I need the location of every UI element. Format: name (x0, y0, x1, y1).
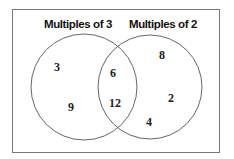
value-3: 3 (54, 60, 60, 74)
value-2: 2 (168, 91, 174, 105)
value-6: 6 (110, 66, 116, 80)
value-8: 8 (159, 48, 165, 62)
universal-set-frame (13, 10, 220, 153)
circle-multiples-of-3 (31, 34, 137, 140)
value-9: 9 (68, 100, 74, 114)
value-12: 12 (109, 96, 121, 110)
venn-diagram: Multiples of 3 Multiples of 2 3 9 6 12 8… (0, 0, 234, 159)
label-multiples-of-3: Multiples of 3 (44, 18, 112, 30)
label-multiples-of-2: Multiples of 2 (129, 18, 197, 30)
value-4: 4 (146, 115, 152, 129)
